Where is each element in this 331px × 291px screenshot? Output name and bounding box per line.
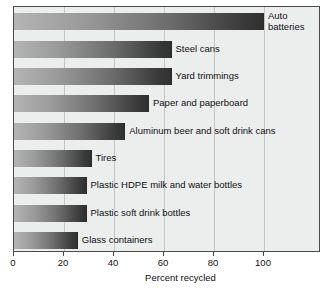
bar	[14, 232, 78, 249]
bar	[14, 95, 149, 112]
bar-row: Auto batteries	[14, 13, 319, 30]
x-axis-tick-label: 100	[255, 257, 271, 268]
bar-row: Steel cans	[14, 41, 319, 58]
x-axis-tick-label: 40	[108, 257, 119, 268]
bar-row: Plastic HDPE milk and water bottles	[14, 177, 319, 194]
bar-row: Glass containers	[14, 232, 319, 249]
x-axis-tick-label: 80	[208, 257, 219, 268]
bar-row: Plastic soft drink bottles	[14, 205, 319, 222]
bars-layer: Auto batteriesSteel cansYard trimmingsPa…	[14, 7, 319, 251]
bar	[14, 123, 125, 140]
bar	[14, 41, 172, 58]
bar-row: Paper and paperboard	[14, 95, 319, 112]
bar-label: Steel cans	[172, 44, 220, 55]
bar	[14, 13, 264, 30]
x-axis-tick	[263, 252, 264, 256]
x-axis-tick-label: 60	[158, 257, 169, 268]
x-axis-tick	[13, 252, 14, 256]
bar	[14, 205, 87, 222]
x-axis-title: Percent recycled	[0, 272, 331, 283]
bar-label: Plastic soft drink bottles	[87, 208, 191, 219]
x-axis-tick	[63, 252, 64, 256]
plot-area: Auto batteriesSteel cansYard trimmingsPa…	[13, 6, 320, 252]
bar	[14, 150, 92, 167]
bar-row: Tires	[14, 150, 319, 167]
bar-label: Yard trimmings	[172, 71, 239, 82]
bar-label: Glass containers	[78, 235, 153, 246]
bar-row: Aluminum beer and soft drink cans	[14, 123, 319, 140]
bar	[14, 68, 172, 85]
bar-label: Aluminum beer and soft drink cans	[125, 126, 275, 137]
x-axis-title-text: Percent recycled	[115, 272, 216, 283]
bar-row: Yard trimmings	[14, 68, 319, 85]
x-axis-tick	[213, 252, 214, 256]
bar-chart: Auto batteriesSteel cansYard trimmingsPa…	[0, 0, 331, 291]
bar-label: Plastic HDPE milk and water bottles	[87, 180, 243, 191]
x-axis-tick-label: 0	[10, 257, 15, 268]
bar	[14, 177, 87, 194]
bar-label: Paper and paperboard	[149, 98, 248, 109]
x-axis-tick-label: 20	[58, 257, 69, 268]
bar-label: Auto batteries	[264, 11, 314, 32]
bar-label: Tires	[92, 153, 117, 164]
x-axis-tick	[113, 252, 114, 256]
x-axis-tick	[163, 252, 164, 256]
